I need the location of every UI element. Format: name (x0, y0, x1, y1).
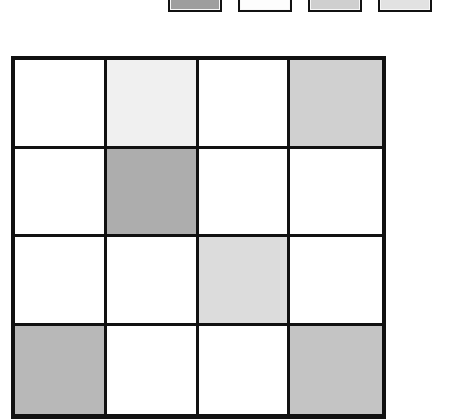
cell-r3c2-fill (107, 237, 196, 323)
grid-cell-r3c2[interactable] (107, 237, 199, 326)
grid-cell-r4c2[interactable] (107, 326, 199, 415)
cell-r1c1-fill (15, 60, 104, 146)
figure-root (0, 0, 455, 419)
grid-cell-r4c1[interactable] (15, 326, 107, 415)
grid-cell-r2c2[interactable] (107, 149, 199, 238)
grid-cell-r4c4[interactable] (290, 326, 382, 415)
cell-r2c1-fill (15, 149, 104, 235)
legend-swatch-2-fill (240, 0, 290, 10)
legend-swatch-1 (168, 0, 222, 12)
legend-swatch-4 (378, 0, 432, 12)
cell-r4c2-fill (107, 326, 196, 415)
grid-cell-r2c3[interactable] (199, 149, 291, 238)
legend-strip (0, 0, 455, 14)
cell-r2c3-fill (199, 149, 288, 235)
cell-r3c3-fill (199, 237, 288, 323)
legend-swatch-1-fill (170, 0, 220, 10)
cell-r1c4-fill (290, 60, 382, 146)
legend-swatch-3 (308, 0, 362, 12)
grid-cell-r1c3[interactable] (199, 60, 291, 149)
grid-table (15, 60, 382, 414)
grid-cell-r4c3[interactable] (199, 326, 291, 415)
grid-body (15, 60, 382, 414)
grid-row (15, 60, 382, 149)
grid-cell-r2c4[interactable] (290, 149, 382, 238)
cell-r3c1-fill (15, 237, 104, 323)
cell-r1c3-fill (199, 60, 288, 146)
shaded-grid-panel (11, 56, 386, 419)
grid-cell-r3c1[interactable] (15, 237, 107, 326)
legend-swatch-2 (238, 0, 292, 12)
grid-cell-r1c4[interactable] (290, 60, 382, 149)
grid-cell-r2c1[interactable] (15, 149, 107, 238)
grid-cell-r3c3[interactable] (199, 237, 291, 326)
cell-r4c4-fill (290, 326, 382, 415)
cell-r4c3-fill (199, 326, 288, 415)
grid-row (15, 326, 382, 415)
cell-r4c1-fill (15, 326, 104, 415)
grid-cell-r3c4[interactable] (290, 237, 382, 326)
grid-cell-r1c1[interactable] (15, 60, 107, 149)
cell-r3c4-fill (290, 237, 382, 323)
grid-row (15, 149, 382, 238)
grid-cell-r1c2[interactable] (107, 60, 199, 149)
legend-swatch-4-fill (380, 0, 430, 10)
cell-r1c2-fill (107, 60, 196, 146)
cell-r2c4-fill (290, 149, 382, 235)
legend-swatch-3-fill (310, 0, 360, 10)
cell-r2c2-fill (107, 149, 196, 235)
grid-row (15, 237, 382, 326)
